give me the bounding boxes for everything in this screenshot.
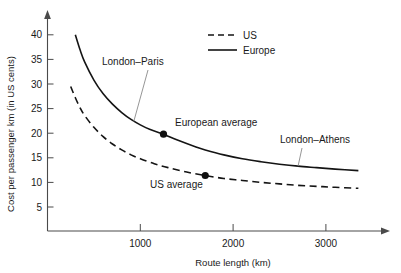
legend-label-europe: Europe — [243, 45, 276, 56]
y-axis-ticks: 5 10 15 20 25 30 — [31, 29, 54, 212]
y-tick-group: 30 — [31, 79, 54, 90]
annotation-london-athens: London–Athens — [280, 134, 350, 145]
x-tick-group: 1000 — [129, 224, 152, 249]
data-point-label-us-average: US average — [150, 179, 203, 190]
legend-label-us: US — [243, 30, 257, 41]
y-tick-label: 5 — [36, 202, 42, 213]
annotation-london-paris: London–Paris — [102, 56, 164, 67]
y-tick-group: 5 — [36, 202, 53, 213]
x-axis-ticks: 1000 2000 3000 — [129, 224, 337, 249]
y-axis-arrow-icon — [44, 10, 51, 19]
y-axis — [44, 10, 51, 231]
y-tick-group: 25 — [31, 103, 54, 114]
y-tick-group: 10 — [31, 177, 54, 188]
leader-line-london-paris — [134, 70, 148, 121]
x-axis-arrow-icon — [381, 228, 390, 235]
x-tick-group: 3000 — [315, 224, 338, 249]
leader-line-london-athens — [298, 148, 302, 166]
y-tick-label: 10 — [31, 177, 43, 188]
cost-vs-route-length-chart: 5 10 15 20 25 30 — [0, 0, 401, 273]
y-tick-label: 15 — [31, 152, 43, 163]
x-tick-group: 2000 — [222, 224, 245, 249]
y-tick-group: 20 — [31, 128, 54, 139]
y-tick-label: 35 — [31, 54, 43, 65]
x-tick-label: 3000 — [315, 238, 338, 249]
y-tick-label: 40 — [31, 29, 43, 40]
x-tick-label: 1000 — [129, 238, 152, 249]
y-axis-title: Cost per passenger km (in US cents) — [5, 56, 16, 212]
data-point-european-average[interactable] — [160, 131, 167, 138]
y-tick-group: 15 — [31, 152, 54, 163]
x-axis — [48, 228, 391, 235]
y-tick-group: 35 — [31, 54, 54, 65]
y-tick-label: 25 — [31, 103, 43, 114]
x-axis-title: Route length (km) — [195, 257, 271, 268]
data-point-label-european-average: European average — [175, 117, 258, 128]
legend: US Europe — [208, 30, 276, 56]
y-tick-label: 20 — [31, 128, 43, 139]
y-tick-label: 30 — [31, 79, 43, 90]
y-tick-group: 40 — [31, 29, 54, 40]
x-tick-label: 2000 — [222, 238, 245, 249]
chart-container: 5 10 15 20 25 30 — [0, 0, 401, 273]
